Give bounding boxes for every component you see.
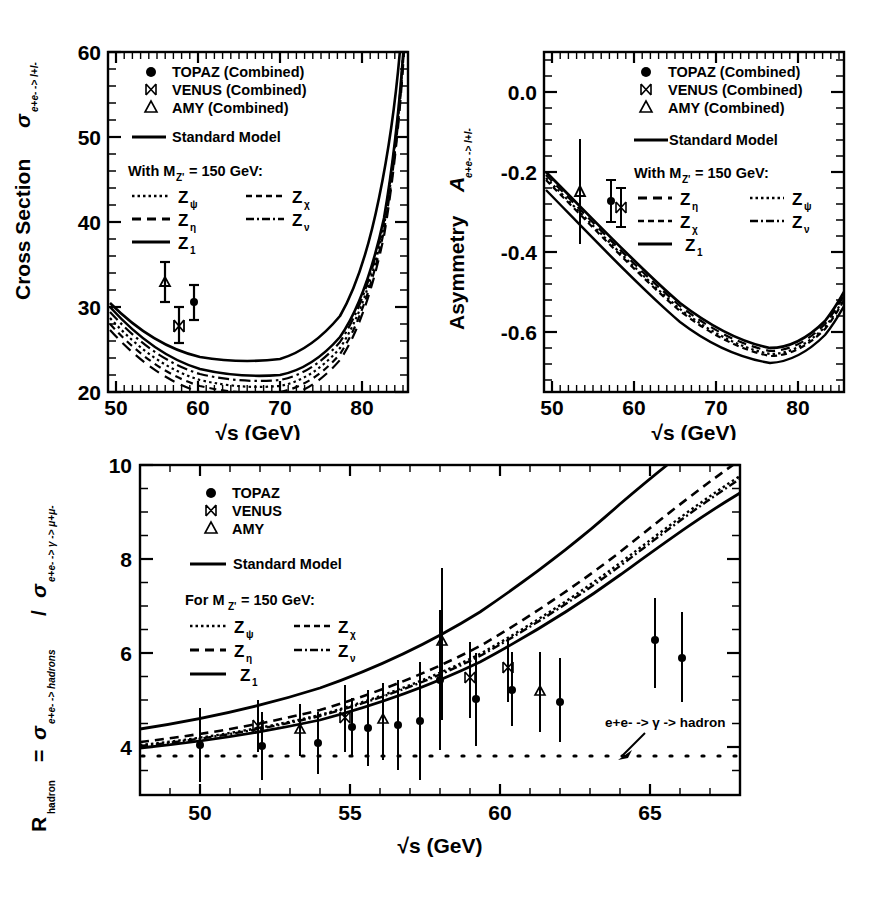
legend-curve-subscript: ψ (246, 629, 254, 640)
y-axis-label-equals: = (27, 750, 50, 762)
data-point (295, 704, 305, 756)
legend-curve-label: Z (685, 236, 695, 255)
data-point (472, 653, 480, 746)
legend-curve-subscript: ψ (190, 199, 198, 210)
x-tick-label: 50 (188, 801, 211, 824)
legend-label-standard-model: Standard Model (172, 129, 281, 145)
x-tick-label: 60 (186, 396, 209, 419)
y-axis-label-symbol: A (445, 177, 468, 193)
legend-label-topaz: TOPAZ (Combined) (668, 64, 801, 80)
legend-label-venus: VENUS (Combined) (668, 82, 803, 98)
panel-cross-section: Cross Section σ e+e- -> l+l- (0, 0, 440, 440)
data-point (678, 612, 686, 702)
y-axis-label-subscript-2: e+e- -> γ -> μ+μ- (46, 505, 57, 582)
legend-curve-label: Z (240, 666, 250, 685)
y-axis-label-main: Cross Section (11, 159, 34, 300)
panel-r-hadron: R hadron = σ e+e- -> hadrons / σ e+e- ->… (0, 440, 883, 915)
legend-mass-subscript: Z' (176, 172, 185, 183)
x-axis-label: √s (GeV) (397, 834, 482, 857)
x-tick-label: 55 (338, 801, 362, 824)
y-axis-label-main: Asymmetry (445, 215, 468, 330)
r-hadron-chart: R hadron = σ e+e- -> hadrons / σ e+e- ->… (0, 440, 883, 915)
legend-curve-subscript: χ (304, 199, 310, 210)
legend-mass-label: For M (185, 592, 224, 608)
data-point-venus (616, 188, 626, 227)
x-tick-label: 65 (638, 801, 662, 824)
y-tick-label: 20 (78, 381, 101, 404)
x-tick-label: 50 (104, 396, 127, 419)
data-point-topaz (606, 180, 616, 222)
legend-curve-label: Z (292, 188, 302, 207)
y-tick-label: -0.4 (501, 241, 538, 264)
legend-curve-subscript: ν (350, 653, 356, 664)
data-point (416, 662, 424, 780)
legend-curve-label: Z (234, 618, 244, 637)
y-axis-label-main-subscript: hadron (46, 780, 57, 814)
y-tick-label: -0.2 (501, 161, 537, 184)
legend-curve-label: Z (792, 213, 802, 232)
legend-curve-label: Z (338, 618, 348, 637)
y-axis-label-divider: / (27, 610, 50, 616)
legend-curve-label: Z (680, 213, 690, 232)
legend-mass-label: With M (634, 165, 681, 181)
legend-curve-label: Z (178, 234, 188, 253)
y-tick-label: 0.0 (508, 81, 537, 104)
y-axis-label-main: R (27, 817, 50, 832)
annotation-text: e+e- -> γ -> hadron (605, 715, 725, 730)
legend-mass-subscript: Z' (682, 174, 691, 185)
legend-mass-subscript: Z' (228, 601, 237, 612)
legend-label-amy: AMY (Combined) (172, 100, 289, 116)
x-tick-label: 80 (786, 396, 809, 419)
data-point (535, 652, 545, 732)
data-point (556, 658, 564, 742)
y-axis-label-symbol-2: σ (27, 583, 50, 598)
y-tick-label: 50 (78, 126, 101, 149)
open-triangle-icon (640, 101, 652, 112)
legend-curve-label: Z (292, 211, 302, 230)
x-axis-label: √s (GeV) (215, 421, 300, 440)
x-tick-label: 60 (488, 801, 511, 824)
annotation-arrow-line (622, 733, 645, 756)
y-tick-label: -0.6 (501, 321, 537, 344)
legend-curve-label: Z (234, 642, 244, 661)
bowtie-icon (206, 505, 216, 516)
legend: TOPAZ VENUS AMY Standard Model For M Z' … (185, 485, 356, 688)
legend-curve-subscript: ν (804, 224, 810, 235)
data-points (160, 262, 199, 343)
legend-curve-subscript: ψ (804, 201, 812, 212)
x-axis-label: √s (GeV) (651, 421, 736, 440)
bowtie-icon (146, 84, 156, 95)
y-tick-label: 40 (78, 211, 101, 234)
legend-curve-subscript: 1 (697, 247, 703, 258)
y-tick-label: 60 (78, 41, 101, 64)
cross-section-chart: Cross Section σ e+e- -> l+l- (0, 0, 440, 440)
x-tick-label: 70 (268, 396, 291, 419)
y-axis-label-subscript: e+e- -> l+l- (29, 62, 40, 112)
bowtie-icon (641, 84, 651, 95)
legend-curve-label: Z (680, 190, 690, 209)
y-axis-label-subscript: e+e- -> l+l- (463, 128, 474, 178)
legend-curve-label: Z (178, 188, 188, 207)
legend-curve-subscript: η (246, 653, 252, 664)
filled-circle-icon (206, 488, 216, 498)
y-tick-label: 4 (120, 736, 132, 759)
y-axis-label: Asymmetry A e+e- -> l+l- (445, 128, 474, 330)
legend-label-venus: VENUS (232, 503, 282, 519)
open-triangle-icon (205, 522, 217, 533)
y-axis-label: Cross Section σ e+e- -> l+l- (11, 62, 40, 300)
legend-label-venus: VENUS (Combined) (172, 82, 307, 98)
y-axis-label-symbol: σ (27, 725, 50, 740)
legend-label-standard-model: Standard Model (233, 556, 342, 572)
data-point (508, 652, 516, 726)
data-point (651, 598, 659, 688)
annotation-arrow-head (618, 750, 632, 760)
y-axis-label: R hadron = σ e+e- -> hadrons / σ e+e- ->… (27, 505, 57, 832)
legend-label-amy: AMY (Combined) (668, 100, 785, 116)
y-axis-label-symbol: σ (11, 113, 34, 128)
y-tick-label: 10 (109, 454, 132, 477)
legend-label-amy: AMY (232, 521, 265, 537)
data-point-amy (160, 262, 170, 302)
legend-curve-label: Z (178, 211, 188, 230)
y-tick-label: 8 (120, 548, 132, 571)
legend-curve-subscript: χ (350, 629, 356, 640)
